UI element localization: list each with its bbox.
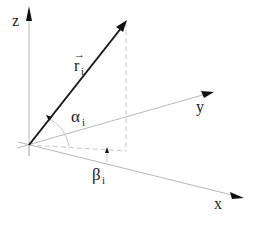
x-axis-arrowhead-icon: [230, 192, 244, 199]
coordinate-diagram: z y x → r i α i β i: [0, 0, 256, 227]
beta-label: β i: [92, 165, 105, 186]
alpha-symbol: α: [71, 107, 80, 126]
beta-symbol: β: [92, 165, 101, 184]
vector-subscript: i: [81, 65, 84, 77]
position-vector: [29, 20, 127, 145]
x-axis-label: x: [214, 195, 222, 212]
vector-arrowhead-icon: [116, 20, 127, 32]
z-axis: [26, 6, 32, 156]
x-axis: [18, 142, 244, 199]
z-axis-arrowhead-icon: [26, 6, 32, 21]
alpha-subscript: i: [82, 116, 85, 128]
y-axis: [17, 91, 214, 148]
vector-label: → r i: [74, 48, 85, 77]
beta-subscript: i: [102, 174, 105, 186]
z-axis-label: z: [12, 12, 19, 29]
alpha-label: α i: [71, 107, 85, 128]
alpha-arc: [48, 118, 69, 146]
y-axis-arrowhead-icon: [201, 91, 214, 98]
vector-symbol: r: [74, 57, 80, 74]
y-axis-label: y: [196, 98, 204, 116]
